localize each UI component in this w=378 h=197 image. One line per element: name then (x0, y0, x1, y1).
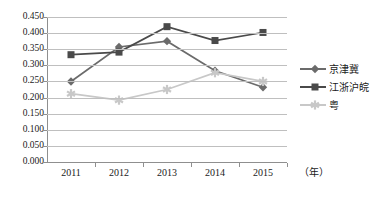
y-axis-tick-label: 0.400 (4, 28, 44, 38)
gridline (47, 17, 287, 18)
line-chart: 0.4500.4000.3500.3000.2500.2000.1500.100… (0, 0, 378, 197)
legend-item-2[interactable]: 江浙沪皖 (300, 78, 378, 96)
data-point-marker (68, 51, 75, 58)
y-axis-label-group: 0.4500.4000.3500.3000.2500.2000.1500.100… (4, 0, 44, 197)
y-axis-tick-label: 0.150 (4, 109, 44, 119)
y-axis-tick-mark (43, 49, 47, 50)
y-axis-tick-label: 0.000 (4, 157, 44, 167)
y-axis-tick-label: 0.050 (4, 141, 44, 151)
gridline (47, 162, 287, 163)
data-point-marker (212, 37, 219, 44)
y-axis-tick-label: 0.100 (4, 125, 44, 135)
series-layer (47, 17, 287, 162)
legend-swatch (300, 63, 326, 75)
legend-swatch (300, 99, 326, 111)
series-line (71, 41, 263, 87)
plot-area (47, 17, 287, 162)
y-axis-tick-mark (43, 65, 47, 66)
y-axis-tick-label: 0.450 (4, 12, 44, 22)
y-axis-tick-mark (43, 98, 47, 99)
x-axis-tick-label: 2013 (147, 167, 187, 178)
legend-label: 京津冀 (329, 64, 359, 75)
gridline (47, 49, 287, 50)
series-1 (67, 37, 267, 91)
legend-marker-square-icon (309, 84, 321, 96)
series-3 (67, 68, 267, 105)
legend-swatch (300, 81, 326, 93)
y-axis-tick-mark (43, 130, 47, 131)
legend-label: 粤 (329, 100, 339, 111)
legend-marker-diamond-icon (309, 66, 321, 78)
gridline (47, 114, 287, 115)
x-axis-title: （年） (299, 167, 329, 178)
y-axis-tick-mark (43, 33, 47, 34)
x-axis-tick-label: 2012 (99, 167, 139, 178)
gridline (47, 98, 287, 99)
y-axis-tick-label: 0.200 (4, 93, 44, 103)
data-point-marker (164, 23, 171, 30)
gridline (47, 146, 287, 147)
y-axis-tick-label: 0.250 (4, 76, 44, 86)
x-axis-tick-label: 2014 (195, 167, 235, 178)
y-axis-tick-mark (43, 114, 47, 115)
y-axis-tick-mark (43, 81, 47, 82)
legend-item-3[interactable]: 粤 (300, 96, 378, 114)
legend-marker-star-icon (309, 102, 321, 114)
y-axis-tick-mark (43, 146, 47, 147)
legend-item-1[interactable]: 京津冀 (300, 60, 378, 78)
x-axis-tick-label: 2011 (51, 167, 91, 178)
chart-legend: 京津冀江浙沪皖粤 (300, 60, 378, 114)
y-axis-tick-label: 0.350 (4, 44, 44, 54)
x-axis-tick-label: 2015 (243, 167, 283, 178)
gridline (47, 130, 287, 131)
y-axis-tick-mark (43, 17, 47, 18)
gridline (47, 65, 287, 66)
y-axis-tick-label: 0.300 (4, 60, 44, 70)
gridline (47, 81, 287, 82)
legend-label: 江浙沪皖 (329, 82, 369, 93)
data-point-marker (163, 37, 171, 45)
gridline (47, 33, 287, 34)
y-axis-tick-mark (43, 162, 47, 163)
